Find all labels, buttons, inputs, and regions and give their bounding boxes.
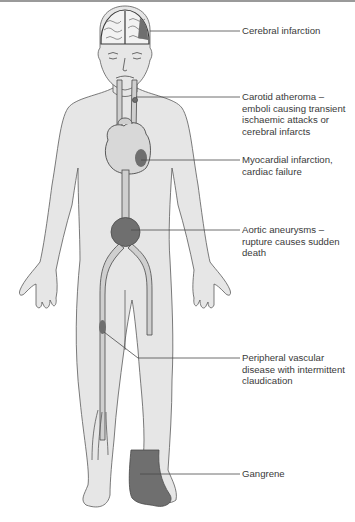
label-aortic-aneurysms: Aortic aneurysms – rupture causes sudden… [242, 224, 340, 259]
human-body-figure [0, 0, 355, 522]
label-cerebral-infarction: Cerebral infarction [242, 25, 320, 37]
label-peripheral-vascular-disease: Peripheral vascular disease with intermi… [242, 352, 345, 387]
label-gangrene: Gangrene [242, 468, 285, 480]
label-carotid-atheroma: Carotid atheroma – emboli causing transi… [242, 91, 345, 137]
label-myocardial-infarction: Myocardial infarction, cardiac failure [242, 154, 333, 177]
body-silhouette [19, 6, 230, 507]
pvd-lesion [99, 320, 106, 334]
